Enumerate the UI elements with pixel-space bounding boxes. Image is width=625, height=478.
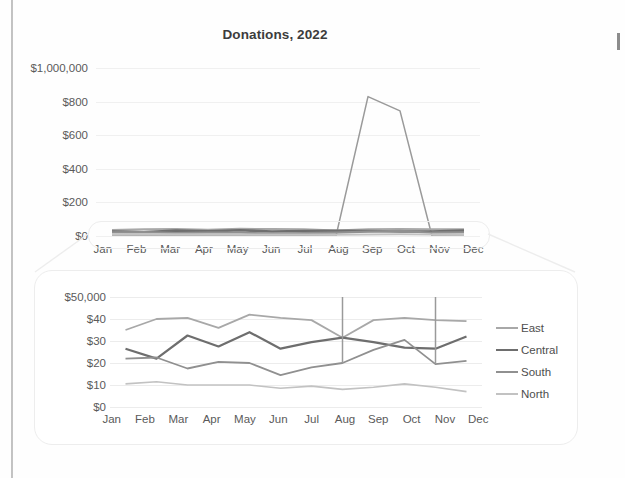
y-tick-label: $0 (93, 401, 106, 413)
legend-label: Central (521, 344, 558, 356)
chart-legend: EastCentralSouthNorth (496, 317, 586, 405)
chart-title: Donations, 2022 (110, 27, 440, 42)
series-line-spike (112, 97, 464, 236)
x-tick-label-may: May (228, 413, 261, 425)
x-tick-label-aug: Aug (328, 413, 361, 425)
y-tick-label: $400 (62, 163, 88, 175)
page-canvas: Donations, 2022 $0$200$400$600$800$1,000… (0, 0, 625, 478)
zoom-chart-x-axis: JanFebMarAprMayJunJulAugSepOctNovDec (95, 413, 495, 425)
x-tick-label-apr: Apr (195, 413, 228, 425)
x-tick-label-jan: Jan (95, 413, 128, 425)
x-tick-label-dec: Dec (462, 413, 495, 425)
legend-label: South (521, 366, 551, 378)
y-tick-label: $20 (87, 357, 106, 369)
legend-label: North (521, 388, 549, 400)
y-tick-label: $0 (75, 230, 88, 242)
series-line-central (126, 332, 467, 358)
legend-swatch-icon (496, 371, 518, 374)
zoom-chart-plot-area (110, 297, 482, 407)
legend-item-south[interactable]: South (496, 361, 586, 383)
y-tick-label: $40 (87, 313, 106, 325)
y-tick-label: $200 (62, 196, 88, 208)
legend-swatch-icon (496, 393, 518, 396)
x-tick-label-oct: Oct (395, 413, 428, 425)
series-line-east (126, 315, 467, 338)
legend-item-north[interactable]: North (496, 383, 586, 405)
zoom-highlight-region[interactable] (88, 221, 490, 249)
y-tick-label: $800 (62, 96, 88, 108)
x-tick-label-jun: Jun (262, 413, 295, 425)
legend-item-central[interactable]: Central (496, 339, 586, 361)
zoom-chart-y-axis: $0$10$20$30$40$50,000 (44, 297, 106, 407)
gridline (110, 407, 482, 408)
legend-swatch-icon (496, 327, 518, 330)
legend-label: East (521, 322, 544, 334)
y-tick-label: $30 (87, 335, 106, 347)
series-line-north (126, 382, 467, 392)
legend-swatch-icon (496, 349, 518, 352)
y-tick-label: $10 (87, 379, 106, 391)
x-tick-label-mar: Mar (162, 413, 195, 425)
top-chart-y-axis: $0$200$400$600$800$1,000,000 (0, 68, 88, 236)
x-tick-label-jul: Jul (295, 413, 328, 425)
x-tick-label-nov: Nov (428, 413, 461, 425)
y-tick-label: $600 (62, 129, 88, 141)
x-tick-label-feb: Feb (128, 413, 161, 425)
page-edge-mark-right (617, 33, 620, 50)
legend-item-east[interactable]: East (496, 317, 586, 339)
x-tick-label-sep: Sep (362, 413, 395, 425)
y-tick-label: $50,000 (64, 291, 106, 303)
y-tick-label: $1,000,000 (30, 62, 88, 74)
top-chart-plot-area (96, 68, 480, 236)
